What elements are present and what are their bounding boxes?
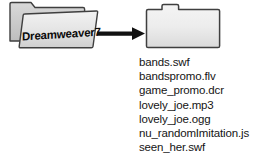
destination-folder[interactable]: Tutorial	[144, 2, 222, 50]
file-list-item[interactable]: lovely_joe.mp3	[139, 98, 273, 112]
right-arrow-icon	[97, 25, 147, 43]
flow-arrow	[97, 25, 147, 43]
file-list-item[interactable]: nu_randomImitation.js	[139, 126, 273, 140]
diagram-canvas: Dreamweaver7 Tutorial bands.swf bandspro…	[0, 0, 274, 164]
file-list-item[interactable]: game_promo.dcr	[139, 83, 273, 97]
file-list-item[interactable]: bands.swf	[139, 55, 273, 69]
file-list: bands.swf bandspromo.flv game_promo.dcr …	[139, 55, 273, 154]
file-list-item[interactable]: lovely_joe.ogg	[139, 112, 273, 126]
file-list-item[interactable]: seen_her.swf	[139, 140, 273, 154]
source-folder[interactable]: Dreamweaver7	[4, 1, 106, 49]
file-list-item[interactable]: bandspromo.flv	[139, 69, 273, 83]
closed-folder-icon	[144, 2, 222, 50]
